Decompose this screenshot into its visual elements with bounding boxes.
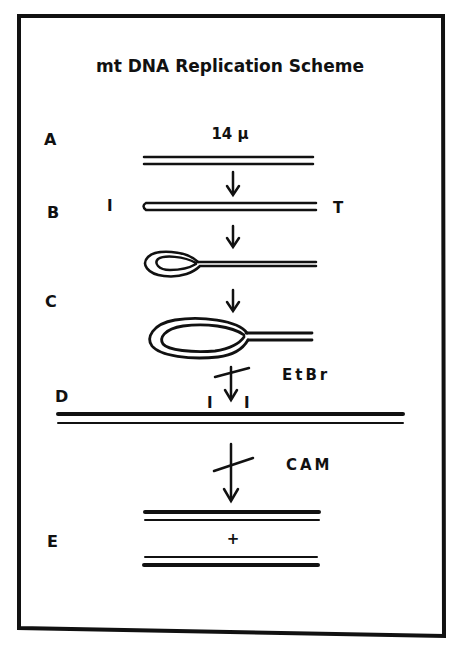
arrow-icon bbox=[227, 172, 239, 195]
initiation-marker: I bbox=[107, 197, 113, 215]
arrow-icon bbox=[227, 290, 239, 311]
arrow-icon bbox=[227, 226, 239, 247]
length-annotation: 14 μ bbox=[211, 125, 248, 143]
stage-label-e: E bbox=[47, 532, 58, 551]
marker-i-right: I bbox=[244, 394, 250, 412]
plus-symbol: + bbox=[227, 530, 240, 548]
diagram-title: mt DNA Replication Scheme bbox=[96, 56, 364, 76]
stage-label-b: B bbox=[47, 203, 59, 222]
marker-i-left: I bbox=[207, 394, 213, 412]
inhibitor-cam: CAM bbox=[286, 456, 333, 474]
inhibited-arrow-icon bbox=[214, 444, 253, 501]
termination-marker: T bbox=[333, 199, 344, 217]
stage-label-d: D bbox=[55, 387, 68, 406]
inhibitor-etbr: EtBr bbox=[282, 366, 330, 384]
hairpin-dna bbox=[144, 203, 317, 210]
stage-label-c: C bbox=[45, 292, 57, 311]
large-d-loop bbox=[150, 319, 312, 358]
small-d-loop bbox=[145, 252, 316, 277]
stage-label-a: A bbox=[44, 130, 57, 149]
diagram-canvas: mt DNA Replication Scheme A 14 μ B I T C bbox=[0, 0, 460, 651]
